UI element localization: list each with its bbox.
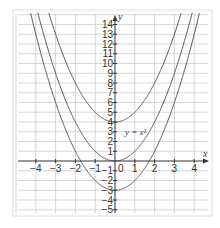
y-tick-label: 2 xyxy=(107,136,113,147)
x-tick-label: 2 xyxy=(152,163,158,174)
curve-label-y-equals-x-squared: y = x² xyxy=(124,127,147,137)
y-axis-label: y xyxy=(117,11,123,22)
y-tick-label: −4 xyxy=(102,195,114,206)
parabola-chart: −4−3−2−101234−5−4−3−2−112345678910111213… xyxy=(0,0,220,228)
y-tick-label: 9 xyxy=(107,68,113,79)
x-tick-label: 3 xyxy=(172,163,178,174)
y-tick-label: 13 xyxy=(102,29,114,40)
x-tick-label: −4 xyxy=(30,163,42,174)
x-tick-label: 1 xyxy=(132,163,138,174)
x-tick-label: 4 xyxy=(191,163,197,174)
y-tick-label: 10 xyxy=(102,58,114,69)
y-tick-label: −2 xyxy=(102,175,114,186)
y-tick-label: 12 xyxy=(102,39,114,50)
y-tick-label: 3 xyxy=(107,126,113,137)
y-tick-label: −3 xyxy=(102,185,114,196)
y-tick-label: 1 xyxy=(107,146,113,157)
x-axis-label: x xyxy=(202,148,208,159)
y-tick-label: 11 xyxy=(103,48,114,59)
y-tick-label: −5 xyxy=(102,204,114,215)
y-tick-label: 8 xyxy=(107,78,113,89)
x-tick-label: −1 xyxy=(89,163,101,174)
y-tick-label: 5 xyxy=(107,107,113,118)
y-tick-label: 6 xyxy=(107,97,113,108)
y-tick-label: 7 xyxy=(107,87,113,98)
x-tick-label: 0 xyxy=(118,163,124,174)
y-tick-label: −1 xyxy=(102,165,114,176)
x-tick-label: −3 xyxy=(50,163,62,174)
y-tick-label: 14 xyxy=(102,19,114,30)
y-tick-label: 4 xyxy=(107,117,113,128)
x-tick-label: −2 xyxy=(70,163,82,174)
